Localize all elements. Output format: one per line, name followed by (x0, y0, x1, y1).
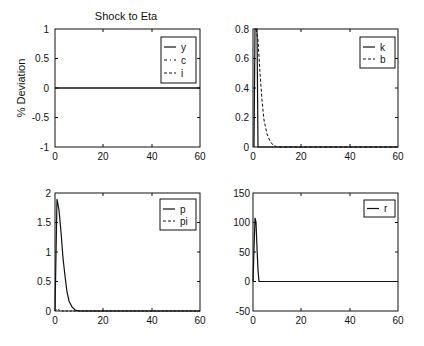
x-tick-labels: 0 20 40 60 (52, 151, 206, 162)
x-tick-label: 40 (344, 315, 356, 326)
legend: y c i (161, 37, 196, 83)
subplot-title: Shock to Eta (95, 10, 158, 22)
y-tick-label: 0.4 (235, 83, 249, 94)
legend-label: b (380, 54, 386, 65)
x-tick-label: 20 (97, 315, 109, 326)
x-tick-label: 40 (344, 151, 356, 162)
y-tick-label: 1 (45, 247, 51, 258)
x-tick-label: 0 (250, 315, 256, 326)
y-tick-label: 0 (243, 142, 249, 153)
y-tick-label: -1 (40, 142, 49, 153)
y-tick-label: 0 (244, 276, 250, 287)
legend-label: pi (180, 216, 188, 227)
x-tick-label: 40 (146, 315, 158, 326)
x-tick-label: 60 (194, 315, 206, 326)
x-tick-label: 0 (52, 151, 58, 162)
subplot-shock-to-eta: Shock to Eta % Deviation 1 0.5 0 -0.5 -1… (15, 10, 206, 162)
subplot-r: 150 100 50 0 -50 0 20 40 60 r (233, 188, 404, 326)
x-tick-label: 20 (295, 151, 307, 162)
y-tick-label: 1 (43, 24, 49, 35)
x-tick-label: 60 (392, 151, 404, 162)
x-tick-labels: 0 20 40 60 (52, 315, 206, 326)
x-tick-label: 40 (146, 151, 158, 162)
x-tick-labels: 0 20 40 60 (250, 315, 404, 326)
legend-label: p (180, 204, 186, 215)
legend-label: y (181, 42, 186, 53)
x-tick-labels: 0 20 40 60 (250, 151, 404, 162)
legend-label: i (181, 68, 183, 79)
x-tick-label: 20 (97, 151, 109, 162)
y-tick-labels: 2 1.5 1 0.5 0 (37, 188, 51, 317)
x-tick-label: 20 (295, 315, 307, 326)
y-tick-label: -0.5 (32, 112, 50, 123)
y-tick-label: 2 (45, 188, 51, 199)
y-axis-label: % Deviation (15, 59, 27, 118)
legend: k b (360, 37, 395, 68)
subplot-k-b: 0.8 0.6 0.4 0.2 0 0 20 40 60 k b (235, 24, 404, 162)
y-tick-labels: 0.8 0.6 0.4 0.2 0 (235, 24, 249, 153)
y-tick-label: 0.2 (235, 112, 249, 123)
y-tick-label: 0 (43, 83, 49, 94)
y-tick-label: 1.5 (37, 217, 51, 228)
y-tick-label: 150 (233, 188, 250, 199)
y-tick-label: 0.8 (235, 24, 249, 35)
y-tick-labels: 1 0.5 0 -0.5 -1 (32, 24, 50, 153)
y-tick-label: 0.5 (37, 276, 51, 287)
x-tick-label: 0 (52, 315, 58, 326)
legend: r (364, 200, 395, 217)
legend-label: c (181, 55, 186, 66)
x-tick-label: 60 (194, 151, 206, 162)
x-tick-label: 60 (392, 315, 404, 326)
subplot-p-pi: 2 1.5 1 0.5 0 0 20 40 60 p pi (37, 188, 206, 326)
y-tick-label: 0.5 (35, 53, 49, 64)
legend: p pi (160, 199, 196, 230)
figure: Shock to Eta % Deviation 1 0.5 0 -0.5 -1… (0, 0, 424, 346)
y-tick-label: 0 (45, 306, 51, 317)
y-tick-label: 0.6 (235, 53, 249, 64)
x-tick-label: 0 (250, 151, 256, 162)
y-tick-label: -50 (236, 306, 251, 317)
y-tick-label: 100 (233, 217, 250, 228)
y-tick-label: 50 (239, 247, 251, 258)
y-tick-labels: 150 100 50 0 -50 (233, 188, 250, 317)
